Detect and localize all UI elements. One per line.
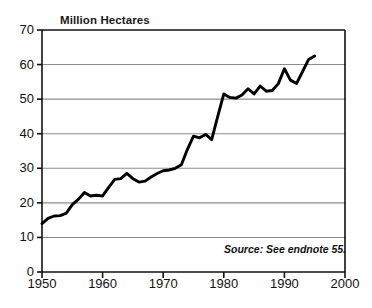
y-axis-tick-label: 10 (4, 230, 34, 243)
chart-plot-area (0, 0, 372, 308)
x-axis-tick-label: 1970 (133, 277, 193, 290)
x-axis-tick-label: 1960 (73, 277, 133, 290)
axis-frame (42, 30, 345, 272)
y-axis-tick-label: 40 (4, 127, 34, 140)
source-note: Source: See endnote 55. (224, 243, 346, 255)
y-axis-tick-label: 60 (4, 58, 34, 71)
y-axis-tick-label: 50 (4, 92, 34, 105)
gridlines (42, 65, 345, 238)
y-axis-tick-label: 30 (4, 161, 34, 174)
x-axis-tick-label: 1980 (194, 277, 254, 290)
data-series-line (42, 56, 315, 224)
x-axis-tick-label: 1950 (12, 277, 72, 290)
y-axis-tick-label: 20 (4, 196, 34, 209)
x-axis-tick-label: 1990 (254, 277, 314, 290)
chart-figure: Million Hectares 706050403020100 1950196… (0, 0, 372, 308)
x-axis-tick-label: 2000 (315, 277, 372, 290)
y-axis-tick-label: 70 (4, 23, 34, 36)
